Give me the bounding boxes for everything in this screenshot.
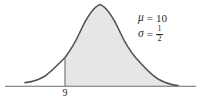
mu-symbol: μ [138, 12, 146, 24]
mean-value: 10 [156, 13, 167, 24]
axis-tick-label-9: 9 [57, 87, 73, 98]
mean-equals-sign: = [146, 13, 156, 24]
fraction-denominator: 2 [156, 35, 162, 43]
fraction-numerator: 1 [156, 25, 162, 33]
normal-distribution-figure: 9 μ = 10 σ = 1 2 [0, 0, 202, 105]
sigma-symbol: σ [138, 28, 146, 40]
mean-annotation: μ = 10 [138, 10, 167, 26]
sigma-value-fraction: 1 2 [156, 25, 163, 42]
sigma-equals-sign: = [146, 29, 156, 40]
parameter-annotations: μ = 10 σ = 1 2 [138, 10, 167, 42]
distribution-plot [0, 0, 202, 105]
sigma-annotation: σ = 1 2 [138, 26, 167, 42]
